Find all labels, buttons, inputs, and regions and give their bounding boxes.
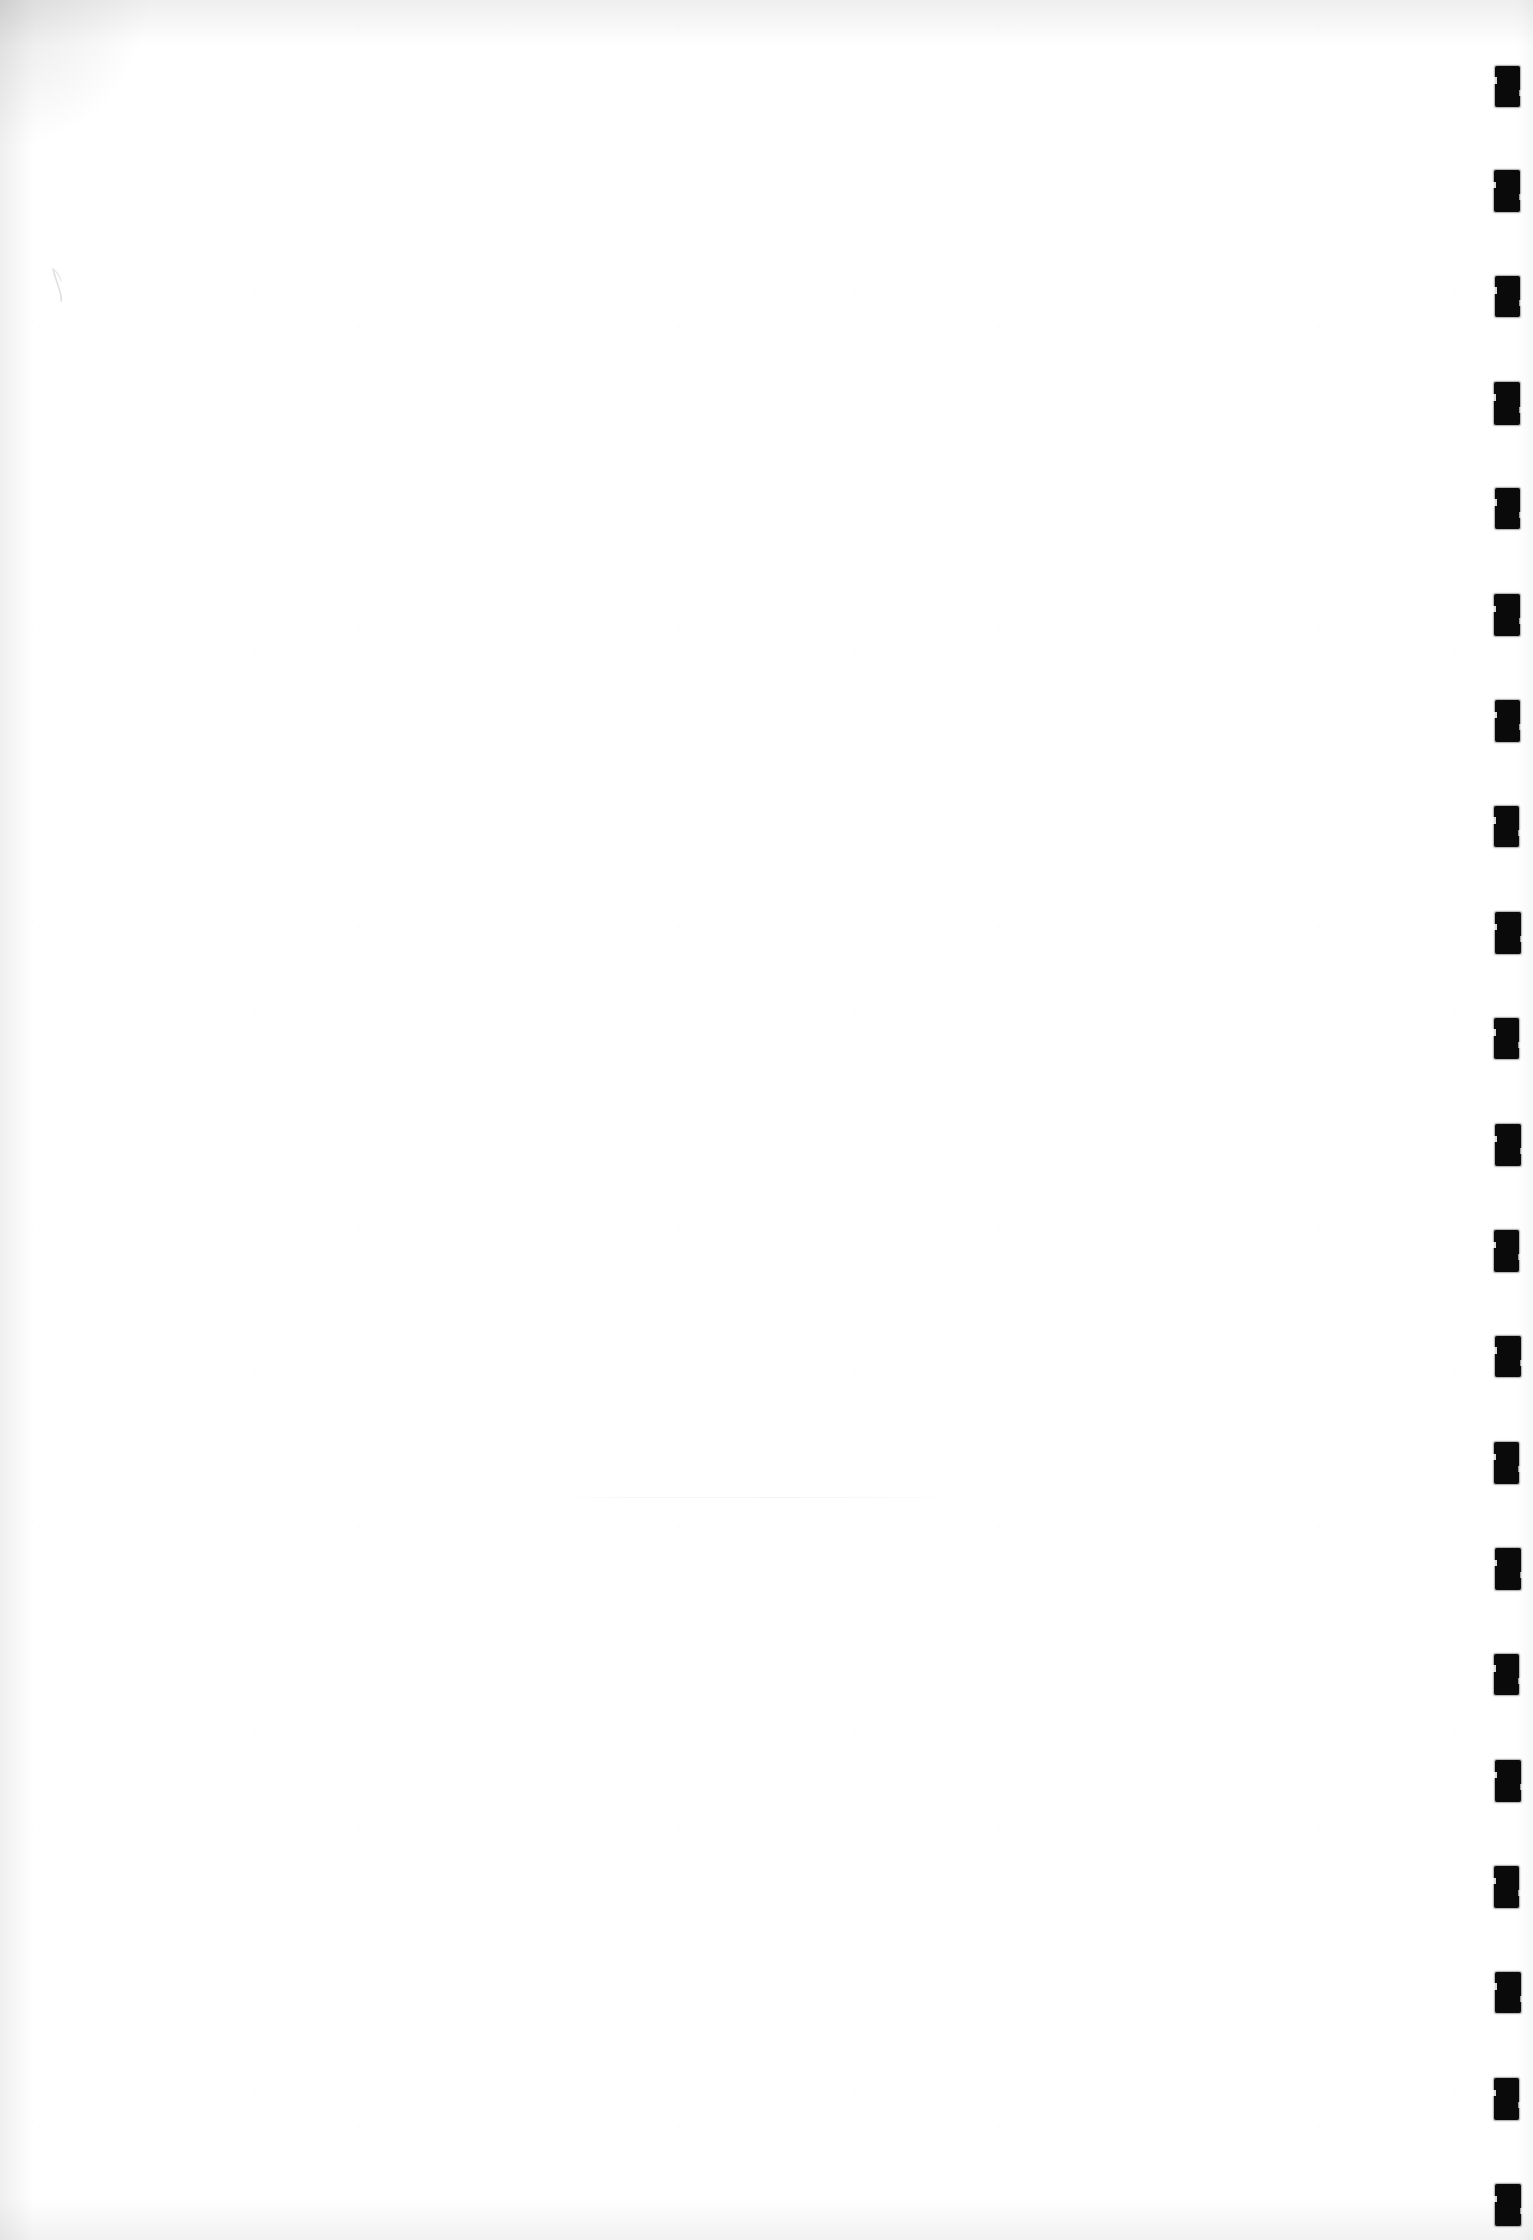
register-mark: [1494, 1230, 1519, 1272]
register-mark: [1495, 1124, 1521, 1166]
handwritten-pen-stroke-icon: [48, 266, 78, 304]
edge-shadow-left: [0, 0, 34, 2240]
paper-grain-texture: [0, 0, 1533, 2240]
register-mark: [1495, 488, 1520, 529]
register-mark: [1494, 806, 1519, 847]
register-mark: [1494, 2078, 1519, 2120]
register-mark-column: [0, 0, 1533, 2240]
register-mark: [1495, 912, 1521, 954]
scan-artifact-line: [560, 1497, 980, 1498]
register-mark: [1494, 1654, 1519, 1695]
register-mark: [1494, 382, 1520, 425]
page-body-text: [0, 0, 1, 1]
register-mark: [1494, 594, 1520, 636]
register-mark: [1494, 1866, 1519, 1908]
register-mark: [1495, 700, 1520, 742]
edge-shadow-bottom: [0, 2198, 1533, 2240]
page-label: [0, 0, 1, 1]
register-mark: [1495, 1972, 1521, 2013]
scan-edge-vignette: [0, 0, 1533, 2240]
edge-shadow-corner-topleft: [0, 0, 150, 150]
register-mark: [1494, 170, 1520, 212]
register-mark: [1495, 66, 1520, 107]
register-mark: [1495, 276, 1520, 317]
edge-shadow-top: [0, 0, 1533, 46]
register-mark: [1494, 1442, 1519, 1484]
register-mark: [1495, 1548, 1521, 1590]
register-mark: [1494, 1018, 1519, 1059]
register-mark: [1495, 1760, 1521, 1802]
register-mark: [1495, 2184, 1521, 2226]
scanned-page: [0, 0, 1533, 2240]
register-mark: [1495, 1336, 1521, 1377]
edge-shadow-right: [1517, 0, 1533, 2240]
